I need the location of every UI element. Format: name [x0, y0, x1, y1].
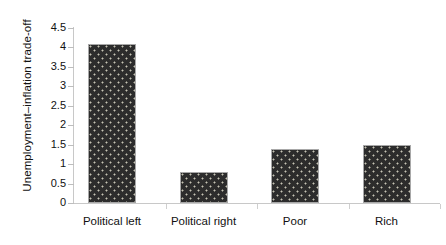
plot-area	[74, 28, 440, 203]
y-axis-tick-label: 3.5	[4, 61, 66, 72]
x-axis-separator-tick	[166, 204, 167, 209]
y-axis-tick-mark	[68, 28, 74, 29]
bar	[180, 172, 228, 203]
x-axis-separator-tick	[440, 204, 441, 209]
y-axis-tick-mark	[68, 106, 74, 107]
y-axis-tick-label: 4.5	[4, 22, 66, 33]
y-axis-tick-label: 4	[4, 41, 66, 52]
bar	[271, 149, 319, 203]
y-axis-tick-mark	[68, 203, 74, 204]
y-axis-tick-mark	[68, 67, 74, 68]
y-axis-tick-label: 1.5	[4, 139, 66, 150]
y-axis-tick-label: 1	[4, 158, 66, 169]
y-axis-tick-label: 2	[4, 119, 66, 130]
bar	[88, 44, 136, 203]
x-axis-separator-tick	[349, 204, 350, 209]
y-axis-tick-mark	[68, 86, 74, 87]
y-axis-tick-mark	[68, 47, 74, 48]
y-axis-tick-mark	[68, 164, 74, 165]
y-axis-tick-labels: 00.511.522.533.544.5	[0, 0, 66, 245]
x-axis-tick-labels: Political leftPolitical rightPoorRich	[74, 215, 440, 235]
y-axis-tick-label: 2.5	[4, 100, 66, 111]
y-axis-tick-mark	[68, 125, 74, 126]
x-axis-separator-tick	[257, 204, 258, 209]
y-axis-tick-mark	[68, 145, 74, 146]
y-axis-tick-label: 0	[4, 197, 66, 208]
bar	[363, 145, 411, 203]
y-axis-tick-mark	[68, 184, 74, 185]
y-axis-tick-label: 0.5	[4, 178, 66, 189]
x-axis-category-label: Rich	[327, 215, 446, 228]
y-axis-tick-label: 3	[4, 80, 66, 91]
bar-chart: Unemployment–inflation trade-off 00.511.…	[0, 0, 446, 245]
